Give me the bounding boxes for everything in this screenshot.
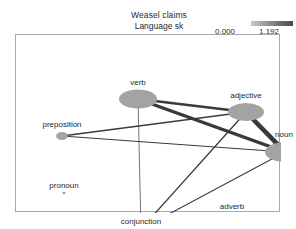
node-label-preposition: preposition	[42, 120, 81, 129]
node-label-adverb: adverb	[220, 202, 244, 211]
language-subtitle: Language sk	[104, 21, 214, 32]
graph-edge-verb-conjunction[interactable]	[138, 99, 141, 213]
graph-node-adjective[interactable]	[228, 103, 264, 121]
node-label-adjective: adjective	[230, 91, 262, 100]
node-label-verb: verb	[130, 78, 146, 87]
graph-node-pronoun[interactable]	[62, 192, 65, 194]
node-label-noun: noun	[275, 130, 293, 139]
chart-header: Weasel claims Language sk 0,000 1,192	[0, 10, 296, 34]
graph-node-preposition[interactable]	[56, 132, 68, 140]
node-label-conjunction: conjunction	[121, 217, 161, 226]
weasel-claims-network-view: Weasel claims Language sk 0,000 1,192 ve…	[0, 0, 296, 229]
node-label-pronoun: pronoun	[49, 181, 78, 190]
page-title: Weasel claims	[104, 10, 214, 21]
title-block: Weasel claims Language sk	[104, 10, 214, 32]
graph-edge-adjective-conjunction[interactable]	[141, 112, 246, 213]
graph-node-verb[interactable]	[119, 90, 157, 109]
graph-edge-noun-conjunction[interactable]	[141, 152, 281, 213]
graph-edge-adjective-preposition[interactable]	[62, 112, 246, 136]
node-layer	[56, 90, 281, 214]
network-plot-frame: verbadjectivenounprepositionpronounconju…	[15, 34, 280, 212]
color-scale-gradient-bar	[251, 21, 293, 26]
